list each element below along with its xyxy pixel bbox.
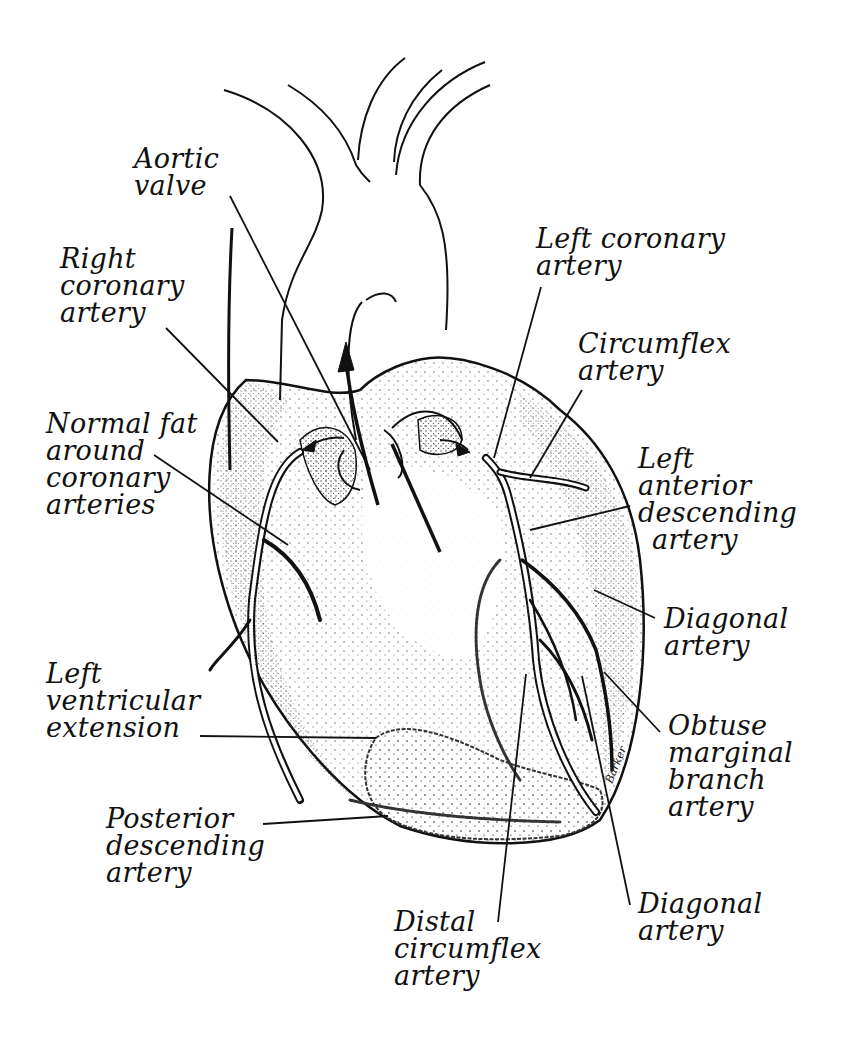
label-line: artery xyxy=(664,632,788,659)
label-line: artery xyxy=(578,357,731,384)
label-line: artery xyxy=(668,793,793,820)
label-line: artery xyxy=(536,252,725,279)
label-normal-fat: Normal fataroundcoronaryarteries xyxy=(46,410,198,518)
label-diagonal-artery-lower: Diagonalartery xyxy=(638,890,762,944)
leader-posterior-descending-artery xyxy=(263,816,388,824)
label-circumflex-artery: Circumflexartery xyxy=(578,330,731,384)
label-line: descending xyxy=(638,499,797,526)
label-line: extension xyxy=(46,714,200,741)
label-line: branch xyxy=(668,766,793,793)
label-aortic-valve: Aorticvalve xyxy=(134,145,219,199)
heart-diagram: Barker AorticvalveRightcoronaryarteryNor… xyxy=(0,0,848,1052)
label-line: Right xyxy=(60,245,185,272)
label-left-ventricular-extension: Leftventricularextension xyxy=(46,660,200,741)
label-diagonal-artery-upper: Diagonalartery xyxy=(664,605,788,659)
label-left-coronary-artery: Left coronaryartery xyxy=(536,225,725,279)
label-line: anterior xyxy=(638,472,797,499)
label-line: Aortic xyxy=(134,145,219,172)
label-line: arteries xyxy=(46,491,198,518)
label-line: around xyxy=(46,437,198,464)
label-line: Posterior xyxy=(106,805,265,832)
label-line: coronary xyxy=(46,464,198,491)
label-line: artery xyxy=(394,962,542,989)
label-line: Left coronary xyxy=(536,225,725,252)
label-line: Obtuse xyxy=(668,712,793,739)
label-distal-circumflex-artery: Distalcircumflexartery xyxy=(394,908,542,989)
label-line: artery xyxy=(106,859,265,886)
label-line: descending xyxy=(106,832,265,859)
label-line: artery xyxy=(60,299,185,326)
label-left-anterior-descending-artery: Leftanteriordescendingartery xyxy=(638,445,797,553)
label-line: coronary xyxy=(60,272,185,299)
label-line: marginal xyxy=(668,739,793,766)
label-line: circumflex xyxy=(394,935,542,962)
label-line: Left xyxy=(638,445,797,472)
label-line: artery xyxy=(638,917,762,944)
label-line: Normal fat xyxy=(46,410,198,437)
label-line: Diagonal xyxy=(664,605,788,632)
label-line: Distal xyxy=(394,908,542,935)
label-line: artery xyxy=(638,526,797,553)
label-posterior-descending-artery: Posteriordescendingartery xyxy=(106,805,265,886)
label-obtuse-marginal-branch-artery: Obtusemarginalbranchartery xyxy=(668,712,793,820)
label-line: ventricular xyxy=(46,687,200,714)
label-line: valve xyxy=(134,172,219,199)
label-line: Diagonal xyxy=(638,890,762,917)
label-line: Circumflex xyxy=(578,330,731,357)
label-line: Left xyxy=(46,660,200,687)
label-right-coronary-artery: Rightcoronaryartery xyxy=(60,245,185,326)
